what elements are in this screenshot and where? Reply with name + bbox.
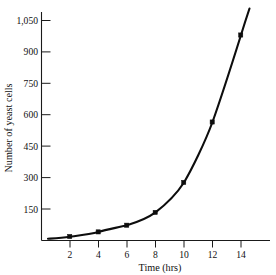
x-tick-label-12: 12 xyxy=(208,249,218,260)
chart-plot-area: 1,050 900 750 600 450 300 150 2 4 6 8 10… xyxy=(0,0,276,275)
y-tick-label-900: 900 xyxy=(24,46,39,57)
y-tick-label-1050: 1,050 xyxy=(16,15,38,26)
y-tick-label-750: 750 xyxy=(24,78,39,89)
data-point-12 xyxy=(210,120,214,124)
x-tick-label-4: 4 xyxy=(96,249,101,260)
x-tick-label-6: 6 xyxy=(125,249,130,260)
y-tick-label-300: 300 xyxy=(24,172,39,183)
growth-curve xyxy=(48,9,250,239)
data-point-8 xyxy=(153,210,157,214)
x-tick-label-8: 8 xyxy=(153,249,158,260)
data-point-6 xyxy=(125,223,129,227)
x-axis-title: Time (hrs) xyxy=(139,262,182,274)
data-point-2 xyxy=(68,234,72,238)
data-point-14 xyxy=(239,33,243,37)
x-tick-label-14: 14 xyxy=(236,249,246,260)
x-tick-label-2: 2 xyxy=(68,249,73,260)
y-tick-label-450: 450 xyxy=(24,141,39,152)
data-point-4 xyxy=(96,230,100,234)
y-axis-title: Number of yeast cells xyxy=(3,83,14,172)
yeast-growth-chart: 1,050 900 750 600 450 300 150 2 4 6 8 10… xyxy=(0,0,276,275)
y-tick-label-600: 600 xyxy=(24,109,39,120)
y-tick-label-150: 150 xyxy=(24,204,39,215)
x-tick-label-10: 10 xyxy=(179,249,189,260)
data-point-10 xyxy=(182,180,186,184)
